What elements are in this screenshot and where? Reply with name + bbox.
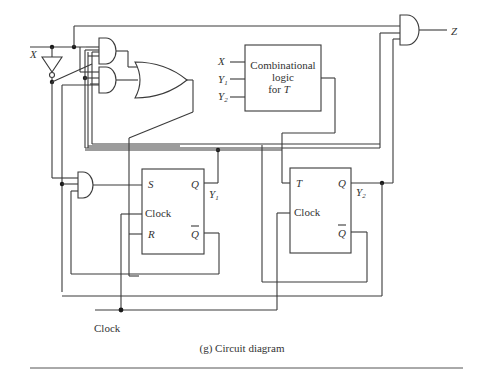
comb-line3: for T: [268, 83, 291, 95]
sr-q-pin: Q: [191, 178, 199, 190]
comb-line1: Combinational: [250, 59, 315, 71]
and-gate-icon: [99, 67, 116, 93]
inverter-bubble-icon: [50, 73, 55, 78]
clock-input-label: Clock: [94, 322, 121, 334]
circuit-diagram: X: [0, 0, 483, 370]
t-clock-pin: Clock: [294, 206, 321, 218]
t-qbar-pin: Q: [338, 227, 346, 239]
and-gate-lower: [62, 67, 138, 93]
and-gate-icon: [400, 15, 419, 45]
t-t-pin: T: [296, 177, 303, 189]
sr-s-pin: S: [148, 178, 154, 190]
and-gate-icon: [78, 172, 93, 198]
t-q-pin: Q: [338, 177, 346, 189]
sr-clock-pin: Clock: [145, 207, 172, 219]
or-gate-icon: [135, 62, 187, 98]
junction-dot: [119, 308, 124, 313]
comb-line2: logic: [272, 71, 294, 83]
output-and-gate: Z: [380, 15, 458, 183]
figure-caption: (g) Circuit diagram: [200, 342, 285, 355]
output-z-label: Z: [451, 25, 458, 37]
comb-input-y2: Y2: [218, 90, 228, 104]
combinational-logic-block: Combinational logic for T X Y1 Y2: [217, 45, 335, 183]
sr-r-pin: R: [147, 228, 155, 240]
sr-qbar-pin: Q: [191, 228, 199, 240]
inverter-gate-icon: [42, 57, 62, 72]
input-x-label: X: [29, 48, 38, 60]
clock-input-section: Clock: [94, 308, 277, 334]
and-gate-upper: [86, 38, 137, 67]
y1-label: Y1: [209, 188, 219, 202]
y2-label: Y2: [356, 186, 366, 200]
comb-input-x: X: [217, 55, 226, 67]
and-gate-icon: [99, 38, 116, 64]
comb-input-y1: Y1: [218, 73, 228, 87]
input-x-section: X: [29, 26, 398, 178]
t-flipflop: T Clock Q Q Y2: [62, 145, 393, 310]
sr-flipflop: S Clock R Q Q Y1: [85, 148, 282, 309]
